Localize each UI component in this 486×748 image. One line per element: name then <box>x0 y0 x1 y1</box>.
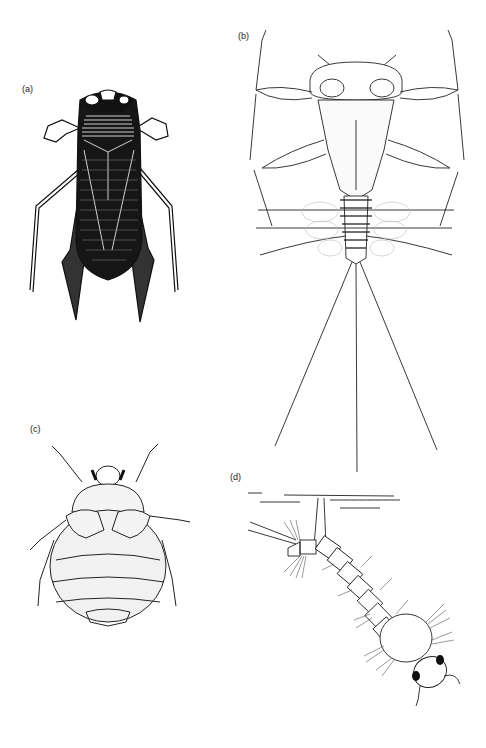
mosquito-larva-illustration <box>0 0 486 748</box>
panel-d: (d) <box>0 0 486 748</box>
